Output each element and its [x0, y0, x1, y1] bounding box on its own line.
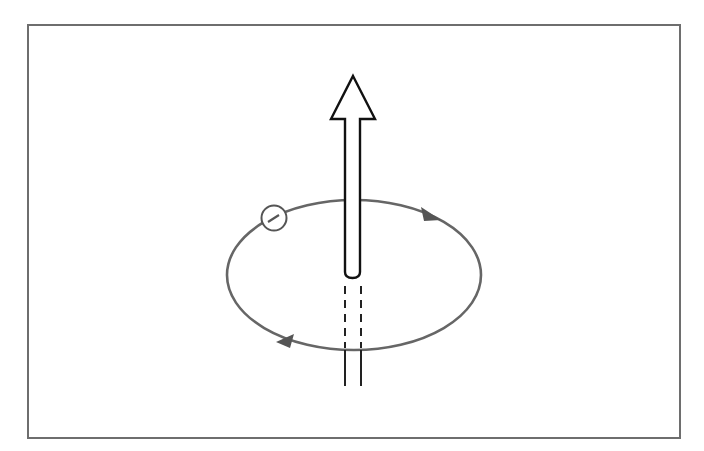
diagram-canvas	[0, 0, 704, 451]
orbit-direction-arrow-top-right	[421, 207, 441, 221]
magnetic-moment-arrow	[331, 76, 375, 278]
